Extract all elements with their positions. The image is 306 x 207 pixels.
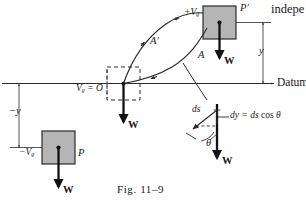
page-body-text: indepe xyxy=(271,3,304,16)
label-point-p-prime: P′ xyxy=(240,3,249,14)
figure-11-9-diagram xyxy=(0,0,306,207)
label-weight-datum: W xyxy=(128,120,139,131)
label-path-a: A xyxy=(198,50,204,61)
label-path-a-prime: A′ xyxy=(150,36,159,47)
label-vg-positive: +Vg xyxy=(184,8,199,18)
path-a-prime-curve xyxy=(124,13,204,84)
label-weight-detail: W xyxy=(222,156,233,167)
label-dim-neg-y: −y xyxy=(9,106,21,117)
label-weight-lower: W xyxy=(63,185,74,196)
label-ds: ds xyxy=(192,105,200,115)
label-theta: θ xyxy=(206,138,211,149)
label-vg-zero: Vg = O xyxy=(76,84,103,94)
theta-ray xyxy=(186,133,196,139)
figure-caption: Fig. 11–9 xyxy=(117,184,164,195)
label-dy-equation: dy = ds cos θ xyxy=(230,111,281,121)
detail-leader-line xyxy=(183,63,207,100)
label-datum: Datum xyxy=(277,77,306,89)
label-weight-upper: W xyxy=(224,56,235,67)
label-point-p: P xyxy=(78,148,84,159)
label-dim-y: y xyxy=(259,46,264,57)
label-vg-negative: −gVg xyxy=(19,148,34,158)
